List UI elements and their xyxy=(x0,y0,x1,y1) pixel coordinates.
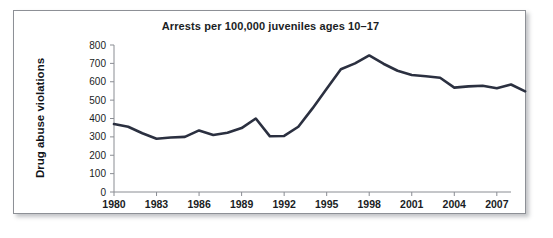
x-tick-label: 1983 xyxy=(145,198,169,210)
x-tick-label: 2007 xyxy=(485,198,509,210)
x-tick-label: 1992 xyxy=(272,198,296,210)
chart-figure-frame: Arrests per 100,000 juveniles ages 10–17… xyxy=(13,10,526,214)
y-tick-label: 300 xyxy=(89,131,106,142)
y-tick-label: 200 xyxy=(89,150,106,161)
line-chart-plot: 0100200300400500600700800 19801983198619… xyxy=(14,11,527,215)
x-tick-label: 1998 xyxy=(358,198,382,210)
y-tick-label: 100 xyxy=(89,168,106,179)
y-tick-labels: 0100200300400500600700800 xyxy=(89,40,106,198)
y-tick-label: 400 xyxy=(89,113,106,124)
y-tick-label: 700 xyxy=(89,58,106,69)
y-tick-label: 0 xyxy=(100,187,106,198)
x-tick-label: 1995 xyxy=(315,198,339,210)
y-tick-label: 800 xyxy=(89,40,106,51)
x-tick-labels: 1980198319861989199219951998200120042007 xyxy=(102,198,508,210)
x-tick-label: 1989 xyxy=(230,198,254,210)
x-tick-label: 2004 xyxy=(443,198,467,210)
data-series-line xyxy=(114,55,525,138)
x-tick-label: 1986 xyxy=(187,198,211,210)
y-tick-label: 500 xyxy=(89,95,106,106)
x-tick-label: 1980 xyxy=(102,198,126,210)
y-tick-marks xyxy=(110,45,114,192)
x-tick-label: 2001 xyxy=(400,198,424,210)
y-tick-label: 600 xyxy=(89,76,106,87)
y-axis-title: Drug abuse violations xyxy=(34,58,46,178)
x-tick-marks xyxy=(114,192,497,196)
